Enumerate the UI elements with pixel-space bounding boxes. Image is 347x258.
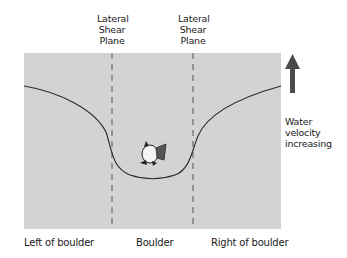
label-line: Lateral <box>178 13 208 24</box>
label-line: increasing <box>285 138 332 149</box>
label-line: Plane <box>178 35 208 46</box>
label-line: Plane <box>97 35 127 46</box>
region-boulder: Boulder <box>136 237 173 248</box>
water-velocity-label: Water velocity increasing <box>285 116 332 149</box>
label-line: velocity <box>285 127 332 138</box>
right-shear-plane-label: Lateral Shear Plane <box>178 13 208 46</box>
region-right-of-boulder: Right of boulder <box>211 237 288 248</box>
region-left-of-boulder: Left of boulder <box>24 237 94 248</box>
label-line: Water <box>285 116 332 127</box>
label-line: Lateral <box>97 13 127 24</box>
label-line: Shear <box>97 24 127 35</box>
left-shear-plane-label: Lateral Shear Plane <box>97 13 127 46</box>
label-line: Shear <box>178 24 208 35</box>
flow-panel <box>24 53 281 229</box>
velocity-arrow-icon <box>285 54 300 93</box>
